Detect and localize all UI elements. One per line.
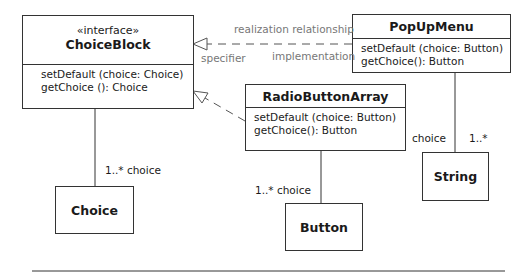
operation: setDefault (choice: Button) [361, 42, 510, 55]
operation: getChoice(): Button [361, 55, 510, 68]
multiplicity-label: 1..* choice [255, 184, 311, 196]
operations: setDefault (choice: Button) getChoice():… [353, 38, 510, 68]
realization-relationship-label: realization relationship [234, 23, 354, 35]
specifier-label: specifier [201, 52, 246, 64]
role-label: choice [412, 132, 446, 144]
class-name: PopUpMenu [353, 19, 510, 34]
operations: setDefault (choice: Button) getChoice():… [246, 107, 405, 137]
class-string: String [422, 152, 489, 201]
class-choice: Choice [55, 186, 134, 234]
multiplicity-label: 1..* choice [105, 164, 161, 176]
class-name: ChoiceBlock [23, 37, 193, 52]
operation: getChoice (): Choice [41, 81, 193, 94]
operation: getChoice(): Button [254, 124, 405, 137]
class-radiobuttonarray: RadioButtonArray setDefault (choice: But… [245, 84, 406, 151]
operation: setDefault (choice: Button) [254, 111, 405, 124]
operation: setDefault (choice: Choice) [41, 68, 193, 81]
operations: setDefault (choice: Choice) getChoice ()… [23, 64, 193, 113]
class-name: RadioButtonArray [246, 89, 405, 104]
class-choiceblock: «interface» ChoiceBlock setDefault (choi… [22, 15, 194, 109]
class-popupmenu: PopUpMenu setDefault (choice: Button) ge… [352, 14, 511, 73]
class-button: Button [285, 203, 363, 251]
stereotype-label: «interface» [23, 24, 193, 37]
implementation-label: implementation [272, 50, 355, 62]
multiplicity-label: 1..* [469, 132, 488, 144]
